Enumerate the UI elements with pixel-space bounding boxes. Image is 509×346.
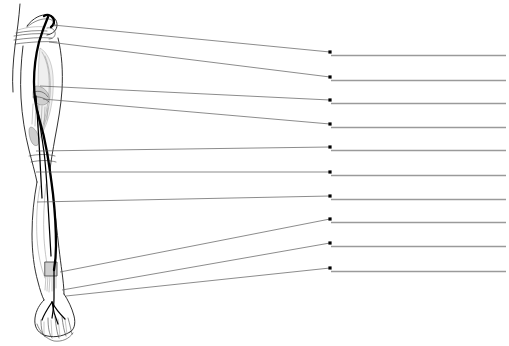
leader-dot	[328, 194, 331, 197]
leader-dot	[328, 75, 331, 78]
leader-dot	[328, 266, 331, 269]
label-lines-layer	[0, 0, 509, 346]
leader-line	[62, 243, 330, 290]
leader-dot	[328, 98, 331, 101]
leader-line	[43, 99, 330, 124]
leader-line	[40, 86, 330, 100]
label-line-10[interactable]	[66, 266, 506, 296]
leader-line	[36, 147, 330, 151]
leader-dot	[328, 217, 331, 220]
leader-line	[60, 219, 330, 272]
leader-line	[37, 196, 330, 202]
leader-dot	[328, 122, 331, 125]
label-line-6[interactable]	[36, 170, 506, 175]
label-line-8[interactable]	[60, 217, 506, 272]
label-line-9[interactable]	[62, 241, 506, 290]
label-line-5[interactable]	[36, 145, 506, 151]
leader-dot	[328, 145, 331, 148]
leader-dot	[328, 50, 331, 53]
worksheet-canvas: Lower limb nerve pathway labeling diagra…	[0, 0, 509, 346]
label-line-7[interactable]	[37, 194, 506, 202]
leader-line	[49, 42, 330, 77]
leader-dot	[328, 241, 331, 244]
label-line-3[interactable]	[40, 86, 506, 104]
leader-dot	[328, 170, 331, 173]
label-line-2[interactable]	[49, 42, 506, 81]
